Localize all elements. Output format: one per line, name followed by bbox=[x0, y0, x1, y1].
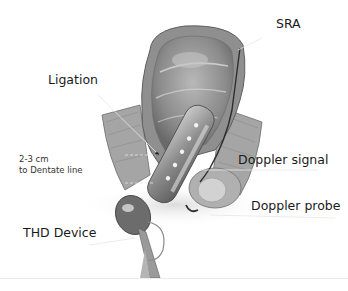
anatomy-illustration bbox=[0, 0, 348, 291]
label-sra: SRA bbox=[276, 17, 301, 31]
thd-diagram: SRA Ligation 2-3 cm to Dentate line Dopp… bbox=[0, 0, 348, 291]
bottom-divider bbox=[0, 278, 348, 279]
label-doppler-signal: Doppler signal bbox=[238, 153, 328, 167]
label-doppler-probe: Doppler probe bbox=[251, 199, 341, 213]
device-handle bbox=[138, 228, 160, 278]
label-distance-value: 2-3 cm bbox=[19, 155, 49, 165]
label-distance-reference: to Dentate line bbox=[19, 166, 83, 176]
label-ligation: Ligation bbox=[48, 73, 98, 87]
label-thd-device: THD Device bbox=[23, 226, 96, 240]
